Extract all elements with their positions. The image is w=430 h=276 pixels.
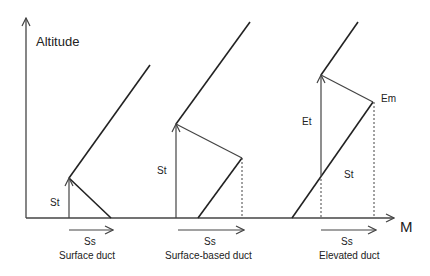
st-label: St <box>157 165 167 176</box>
panel-caption: Surface duct <box>59 250 115 261</box>
x-axis-label: M <box>400 218 413 235</box>
m-profile-upper <box>321 22 358 75</box>
y-axis-label: Altitude <box>36 34 79 49</box>
ss-label: Ss <box>204 236 216 247</box>
em-label: Em <box>381 93 396 104</box>
panel-elevated-duct: Et Em St Ss Elevated duct <box>292 22 396 261</box>
m-profile-middle <box>176 124 242 158</box>
duct-diagram: Altitude M St Ss Surface duct St Ss Surf… <box>0 0 430 276</box>
ss-label: Ss <box>84 236 96 247</box>
m-profile-upper <box>69 65 150 178</box>
m-profile-lower <box>69 178 111 218</box>
panel-surface-duct: St Ss Surface duct <box>50 65 150 261</box>
axes: Altitude M <box>26 18 413 235</box>
panel-caption: Elevated duct <box>319 250 380 261</box>
st-label: St <box>344 169 354 180</box>
et-label: Et <box>302 116 312 127</box>
m-profile-lower <box>198 158 242 218</box>
panel-surface-based-duct: St Ss Surface-based duct <box>157 22 252 261</box>
m-profile-middle <box>321 75 373 102</box>
st-label: St <box>50 197 60 208</box>
panel-caption: Surface-based duct <box>165 250 252 261</box>
m-profile-upper <box>176 22 250 124</box>
ss-label: Ss <box>341 236 353 247</box>
